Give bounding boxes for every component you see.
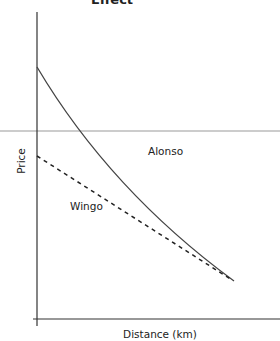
wingo-line xyxy=(37,156,232,280)
x-axis-label: Distance (km) xyxy=(123,328,197,340)
chart: Effect Alonso Wingo Price Distance (km) xyxy=(0,0,280,341)
y-axis-label: Price xyxy=(15,148,27,174)
alonso-label: Alonso xyxy=(148,145,183,157)
chart-title: Effect xyxy=(91,0,133,7)
wingo-label: Wingo xyxy=(70,200,103,212)
